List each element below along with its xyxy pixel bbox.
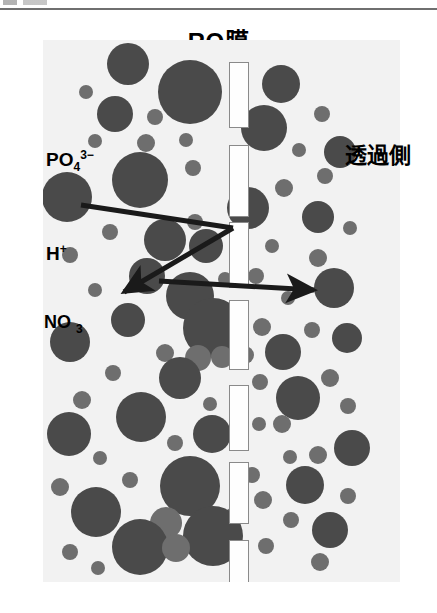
particle <box>302 201 334 233</box>
particle <box>162 534 190 562</box>
particle <box>91 561 105 575</box>
particle <box>265 334 301 370</box>
particle <box>102 224 118 240</box>
scan-horizontal-rule <box>0 8 437 10</box>
label-nitrate-ion: NO 3 <box>44 312 83 336</box>
particle <box>43 172 92 222</box>
particle <box>304 322 320 338</box>
particle <box>203 397 217 411</box>
particle <box>112 519 168 575</box>
particle <box>321 369 339 387</box>
membrane-pore <box>229 300 249 370</box>
particle <box>47 412 91 456</box>
particle <box>314 268 354 308</box>
particle <box>73 391 91 409</box>
particle <box>112 152 168 208</box>
membrane-pore <box>229 385 249 451</box>
particle <box>275 179 293 197</box>
particle <box>254 491 272 509</box>
particle <box>185 160 201 176</box>
scan-artifact-strip <box>3 0 63 5</box>
particle <box>187 214 203 230</box>
label-no3-sub: 3 <box>76 322 83 336</box>
particle <box>309 446 327 464</box>
membrane-pore <box>229 222 249 288</box>
particle <box>343 221 357 235</box>
particle <box>159 357 201 399</box>
label-no3-base: NO <box>44 312 71 332</box>
particle <box>122 472 138 488</box>
particle <box>332 323 362 353</box>
particle <box>281 291 295 305</box>
label-phosphate-ion: PO43− <box>46 148 94 174</box>
particle <box>309 249 327 267</box>
particle <box>167 435 183 451</box>
membrane-pore <box>229 62 249 128</box>
membrane-pore <box>229 540 249 582</box>
label-po4-sub: 4 <box>73 160 80 174</box>
particle <box>97 96 133 132</box>
particle <box>253 318 271 336</box>
label-permeate-side: 透過側 <box>345 137 411 169</box>
particle <box>137 134 155 152</box>
particle <box>276 376 320 420</box>
particle <box>283 450 297 464</box>
particle <box>129 258 165 294</box>
particle <box>111 303 145 337</box>
particle <box>144 219 186 261</box>
label-hydrogen-ion: H+ <box>46 242 67 265</box>
particle <box>340 398 356 414</box>
label-po4-base: PO <box>46 149 73 170</box>
particle <box>314 106 330 122</box>
particle <box>79 85 93 99</box>
particle <box>312 512 348 548</box>
particle <box>193 415 231 453</box>
particle <box>286 466 324 504</box>
particle <box>258 538 274 554</box>
particle <box>105 365 121 381</box>
particle <box>88 283 102 297</box>
membrane-diagram-field <box>43 40 400 582</box>
label-h-sup: + <box>60 242 67 256</box>
particle <box>189 229 223 263</box>
particle <box>93 451 107 465</box>
label-h-base: H <box>46 243 60 264</box>
particle <box>340 488 356 504</box>
particle <box>292 143 306 157</box>
particle <box>248 268 264 284</box>
membrane-pore <box>229 145 249 217</box>
particle <box>116 392 166 442</box>
particle <box>62 544 78 560</box>
particle <box>311 553 329 571</box>
particle <box>265 239 279 253</box>
particle <box>273 415 291 433</box>
particle <box>179 133 193 147</box>
particle <box>158 60 222 124</box>
particle <box>147 109 163 125</box>
particle <box>51 478 69 496</box>
particle <box>107 43 149 85</box>
particle <box>252 417 266 431</box>
particle <box>317 168 333 184</box>
particle <box>334 430 370 466</box>
label-po4-sup: 3− <box>80 148 94 162</box>
particle <box>262 65 300 103</box>
particle <box>283 512 299 528</box>
particle <box>88 134 102 148</box>
particle <box>252 374 268 390</box>
membrane-pore <box>229 462 249 524</box>
particle <box>71 487 121 537</box>
